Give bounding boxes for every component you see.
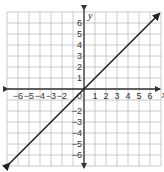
x-tick-label: 4 — [125, 91, 130, 101]
y-tick-label: 2 — [77, 62, 82, 72]
y-tick-label: −3 — [72, 117, 82, 127]
y-tick-label: 1 — [77, 73, 82, 83]
x-tick-label: 6 — [147, 91, 152, 101]
y-tick-label: −2 — [72, 106, 82, 116]
x-tick-label: −5 — [24, 91, 34, 101]
x-tick-label: −4 — [35, 91, 45, 101]
x-tick-label: 5 — [136, 91, 141, 101]
x-tick-label: 3 — [114, 91, 119, 101]
y-tick-label: 4 — [77, 40, 82, 50]
x-tick-label: −3 — [46, 91, 56, 101]
coordinate-graph: xy −6−5−4−3−2123456654321−2−3−4−5−60 — [0, 0, 164, 172]
y-tick-label: −4 — [72, 128, 82, 138]
x-tick-label: 2 — [103, 91, 108, 101]
y-axis-label: y — [87, 10, 93, 21]
x-tick-label: −2 — [57, 91, 67, 101]
y-tick-label: 3 — [77, 51, 82, 61]
x-tick-label: −6 — [13, 91, 23, 101]
y-tick-label: 5 — [77, 29, 82, 39]
x-axis-label: x — [161, 89, 164, 100]
y-tick-label: −6 — [72, 150, 82, 160]
y-tick-label: 6 — [77, 18, 82, 28]
x-tick-label: 1 — [92, 91, 97, 101]
y-tick-label: −5 — [72, 139, 82, 149]
